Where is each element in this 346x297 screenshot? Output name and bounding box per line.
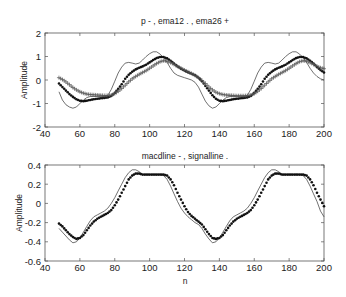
- data-point-ema12: [262, 80, 265, 83]
- x-tick-label: 100: [142, 262, 158, 273]
- y-tick-label: 0.2: [28, 179, 41, 190]
- data-point-signalline: [89, 224, 92, 227]
- x-tick-label: 40: [40, 262, 51, 273]
- x-tick-label: 160: [246, 262, 262, 273]
- data-point-signalline: [262, 188, 265, 191]
- bottom-plot-ylabel: Amplitude: [14, 194, 24, 232]
- data-point-signalline: [119, 195, 122, 198]
- data-point-signalline: [321, 202, 324, 205]
- top-subplot: p - , ema12 . , ema26 + 4060801001201401…: [19, 16, 332, 139]
- data-point-signalline: [86, 229, 89, 232]
- data-point-signalline: [168, 176, 171, 179]
- data-point-signalline: [176, 192, 179, 195]
- data-point-signalline: [126, 182, 129, 185]
- x-tick-label: 80: [109, 262, 120, 273]
- y-tick-label: 0: [36, 198, 41, 209]
- data-point-signalline: [307, 176, 310, 179]
- data-point-ema12: [208, 89, 211, 92]
- data-point-signalline: [115, 201, 118, 204]
- data-point-ema12: [323, 71, 326, 74]
- data-point-ema12: [126, 76, 129, 79]
- data-point-signalline: [223, 231, 226, 234]
- y-tick-label: -0.4: [25, 236, 41, 247]
- data-point-signalline: [229, 224, 232, 227]
- data-point-signalline: [204, 228, 207, 231]
- top-plot-title: p - , ema12 . , ema26 +: [141, 16, 229, 26]
- bottom-plot-title: macdline - , signalline .: [142, 151, 228, 161]
- data-point-signalline: [87, 227, 90, 230]
- x-tick-label: 80: [109, 128, 120, 139]
- x-tick-label: 140: [211, 128, 227, 139]
- y-tick-label: 1: [36, 51, 41, 62]
- data-point-signalline: [84, 231, 87, 234]
- x-tick-label: 140: [211, 262, 227, 273]
- data-point-signalline: [314, 188, 317, 191]
- data-point-signalline: [309, 178, 312, 181]
- data-point-ema12: [263, 78, 266, 81]
- top-plot-ylabel: Amplitude: [19, 61, 29, 99]
- data-point-signalline: [269, 176, 272, 179]
- data-point-signalline: [122, 188, 125, 191]
- data-point-signalline: [206, 230, 209, 233]
- data-point-signalline: [250, 209, 253, 212]
- top-plot-frame: [45, 33, 324, 127]
- data-point-ema12: [120, 83, 123, 86]
- data-point-signalline: [263, 185, 266, 188]
- data-point-signalline: [65, 229, 68, 232]
- data-point-signalline: [175, 188, 178, 191]
- data-point-ema12: [258, 85, 261, 88]
- data-point-signalline: [124, 185, 127, 188]
- y-tick-label: -0.6: [25, 256, 41, 267]
- data-point-signalline: [318, 195, 321, 198]
- x-tick-label: 40: [40, 128, 51, 139]
- data-point-signalline: [112, 206, 115, 209]
- x-tick-label: 200: [316, 262, 332, 273]
- x-tick-label: 60: [75, 128, 86, 139]
- data-point-ema12: [119, 85, 122, 88]
- data-point-signalline: [201, 223, 204, 226]
- data-point-signalline: [91, 222, 94, 225]
- data-point-signalline: [209, 235, 212, 238]
- data-point-signalline: [256, 198, 259, 201]
- data-point-signalline: [187, 211, 190, 214]
- data-point-signalline: [316, 192, 319, 195]
- data-point-signalline: [178, 195, 181, 198]
- data-point-signalline: [323, 205, 326, 208]
- data-point-signalline: [311, 181, 314, 184]
- data-point-signalline: [183, 205, 186, 208]
- data-point-signalline: [182, 202, 185, 205]
- data-point-signalline: [222, 234, 225, 237]
- data-point-ema12: [124, 78, 127, 81]
- figure: p - , ema12 . , ema26 + 4060801001201401…: [0, 0, 346, 297]
- data-point-signalline: [120, 192, 123, 195]
- data-point-signalline: [230, 222, 233, 225]
- data-point-signalline: [110, 209, 113, 212]
- y-tick-label: -2: [33, 122, 41, 133]
- data-point-signalline: [180, 198, 183, 201]
- data-point-signalline: [117, 198, 120, 201]
- y-tick-label: -0.2: [25, 217, 41, 228]
- data-point-signalline: [265, 182, 268, 185]
- data-point-ema12: [265, 76, 268, 79]
- bottom-plot-xlabel: n: [183, 276, 188, 286]
- data-point-signalline: [61, 225, 64, 228]
- data-point-signalline: [185, 208, 188, 211]
- data-point-signalline: [173, 184, 176, 187]
- data-point-signalline: [312, 184, 315, 187]
- x-tick-label: 200: [316, 128, 332, 139]
- data-point-signalline: [82, 234, 85, 237]
- data-point-signalline: [227, 227, 230, 230]
- data-point-signalline: [319, 198, 322, 201]
- data-point-signalline: [114, 204, 117, 207]
- x-tick-label: 120: [177, 128, 193, 139]
- data-point-signalline: [169, 178, 172, 181]
- data-point-signalline: [255, 201, 258, 204]
- x-tick-label: 120: [177, 262, 193, 273]
- data-point-signalline: [129, 176, 132, 179]
- data-point-signalline: [171, 181, 174, 184]
- x-tick-label: 180: [281, 262, 297, 273]
- data-point-signalline: [260, 192, 263, 195]
- x-tick-label: 100: [142, 128, 158, 139]
- bottom-subplot: macdline - , signalline . 40608010012014…: [14, 151, 332, 286]
- data-point-signalline: [208, 233, 211, 236]
